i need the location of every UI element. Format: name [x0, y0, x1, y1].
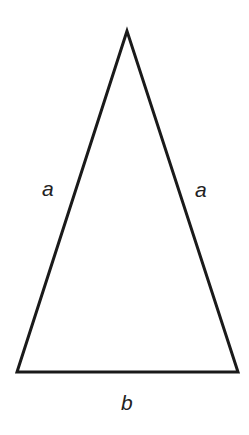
left-side-label: a — [42, 177, 54, 200]
right-side-label: a — [195, 178, 207, 201]
base-label: b — [121, 391, 133, 414]
isosceles-triangle — [17, 31, 238, 372]
triangle-diagram: a a b — [0, 0, 249, 435]
